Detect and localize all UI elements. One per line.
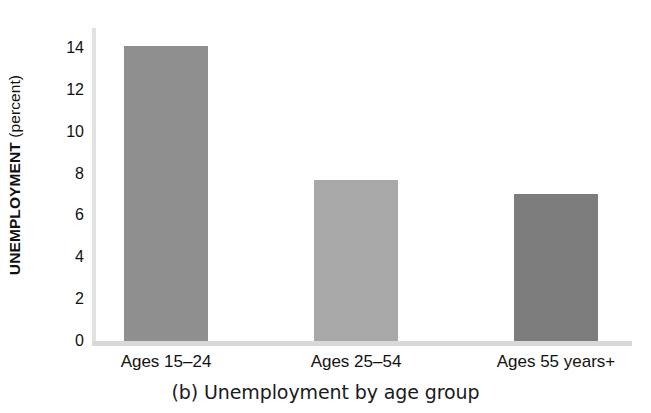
y-tick-label-4: 4 [44,248,84,266]
y-tick-label-8: 8 [44,165,84,183]
y-tick-label-2: 2 [44,290,84,308]
y-tick-label-10: 10 [44,123,84,141]
y-tick-label-14: 14 [44,39,84,57]
category-label-2: Ages 25–54 [311,352,402,372]
bar-2 [314,180,398,341]
unemployment-by-age-group-chart: UNEMPLOYMENT (percent) 02468101214 Ages … [0,0,651,413]
y-axis-title-bold: UNEMPLOYMENT [6,142,23,275]
figure-caption: (b) Unemployment by age group [0,381,651,403]
category-label-1: Ages 15–24 [121,352,212,372]
y-axis-title-unit: (percent) [6,75,23,142]
bar-3 [514,194,598,341]
y-tick-label-6: 6 [44,206,84,224]
plot-area: 02468101214 [92,12,632,342]
y-tick-label-0: 0 [44,332,84,350]
y-axis-line [92,28,96,342]
x-axis-line [92,341,632,346]
y-tick-label-12: 12 [44,81,84,99]
bar-1 [124,46,208,341]
x-axis-category-labels: Ages 15–24Ages 25–54Ages 55 years+ [92,352,632,376]
y-axis-title: UNEMPLOYMENT (percent) [0,0,30,350]
y-axis-tick-labels: 02468101214 [40,12,84,342]
category-label-3: Ages 55 years+ [497,352,616,372]
